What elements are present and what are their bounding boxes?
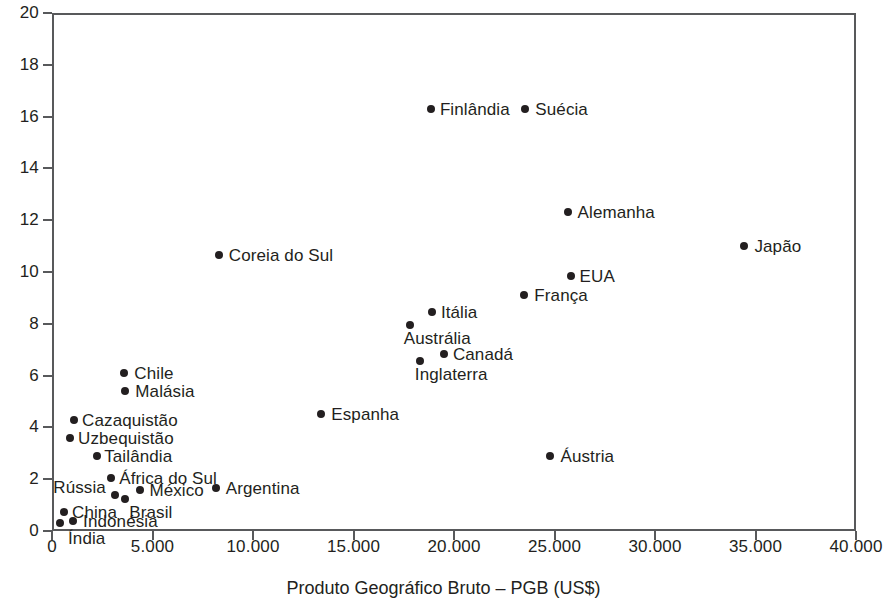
data-point[interactable] — [406, 321, 414, 329]
x-axis-tick-label: 35.000 — [729, 537, 782, 557]
data-point[interactable] — [427, 105, 435, 113]
y-axis-tick-label: 2 — [3, 469, 39, 489]
data-point-label: Austrália — [404, 330, 471, 347]
y-axis-tick-label: 18 — [3, 55, 39, 75]
data-point-label: EUA — [580, 268, 615, 285]
x-axis-tick-label: 15.000 — [327, 537, 380, 557]
y-axis-tick — [43, 375, 52, 377]
data-point-label: Alemanha — [578, 204, 655, 221]
data-point[interactable] — [215, 251, 223, 259]
y-axis-tick — [43, 167, 52, 169]
y-axis-tick-label: 6 — [3, 366, 39, 386]
y-axis-tick — [43, 116, 52, 118]
y-axis-tick-label: 20 — [3, 3, 39, 23]
data-point-label: Canadá — [453, 346, 513, 363]
y-axis-tick-label: 12 — [3, 210, 39, 230]
data-point-label: Brasil — [129, 504, 172, 521]
data-point-label: Finlândia — [440, 101, 510, 118]
y-axis-tick — [43, 426, 52, 428]
x-axis-tick-label: 30.000 — [628, 537, 681, 557]
data-point[interactable] — [567, 272, 575, 280]
data-point[interactable] — [564, 208, 572, 216]
x-axis-tick-label: 25.000 — [528, 537, 581, 557]
x-axis-tick-label: 20.000 — [427, 537, 480, 557]
plot-area-frame — [52, 13, 856, 531]
y-axis-tick — [43, 271, 52, 273]
scatter-chart-figure: 02468101214161820 05.00010.00015.00020.0… — [0, 0, 887, 611]
y-axis-tick — [43, 12, 52, 14]
data-point-label: Malásia — [135, 383, 194, 400]
x-axis-tick-label: 10.000 — [226, 537, 279, 557]
data-point[interactable] — [428, 308, 436, 316]
x-axis-tick-label: 0 — [47, 537, 57, 557]
data-point-label: Japão — [754, 238, 801, 255]
data-point-label: Coreia do Sul — [229, 247, 333, 264]
data-point-label: Uzbequistão — [78, 430, 174, 447]
data-point-label: Rússia — [53, 479, 106, 496]
y-axis-tick-label: 0 — [3, 521, 39, 541]
data-point-label: Inglaterra — [415, 366, 488, 383]
data-point-label: Áustria — [560, 448, 614, 465]
data-point-label: China — [72, 504, 117, 521]
data-point-label: Chile — [134, 365, 173, 382]
data-point-label: Suécia — [535, 101, 588, 118]
y-axis-tick — [43, 478, 52, 480]
data-point[interactable] — [121, 495, 129, 503]
x-axis-tick-label: 40.000 — [829, 537, 882, 557]
data-point-label: Itália — [441, 304, 478, 321]
data-point-label: Tailândia — [104, 448, 172, 465]
y-axis-tick-label: 4 — [3, 417, 39, 437]
data-point[interactable] — [60, 508, 68, 516]
y-axis-tick — [43, 323, 52, 325]
y-axis-tick-label: 16 — [3, 107, 39, 127]
data-point-label: África do Sul — [119, 470, 217, 487]
data-point[interactable] — [66, 434, 74, 442]
x-axis-tick-label: 5.000 — [131, 537, 175, 557]
y-axis-tick-label: 14 — [3, 158, 39, 178]
y-axis-tick — [43, 64, 52, 66]
y-axis-tick — [43, 219, 52, 221]
x-axis-title: Produto Geográfico Bruto – PGB (US$) — [0, 578, 887, 599]
data-point[interactable] — [440, 350, 448, 358]
y-axis-tick-label: 8 — [3, 314, 39, 334]
y-axis-tick-label: 10 — [3, 262, 39, 282]
data-point-label: Cazaquistão — [82, 412, 178, 429]
data-point-label: Espanha — [331, 406, 399, 423]
data-point-label: França — [534, 287, 588, 304]
data-point-label: Índia — [68, 530, 105, 547]
data-point[interactable] — [70, 416, 78, 424]
data-point-label: Argentina — [226, 480, 300, 497]
